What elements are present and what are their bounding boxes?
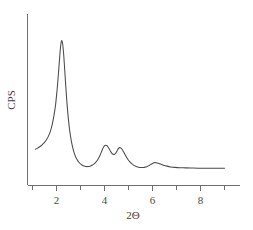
- x-tick-label-3: 8: [198, 194, 204, 206]
- chart-canvas: 2 4 6 8 2Θ CPS: [0, 0, 253, 230]
- x-tick-label-2: 6: [150, 194, 156, 206]
- x-axis-title: 2Θ: [126, 209, 140, 221]
- x-tick-label-1: 4: [102, 194, 108, 206]
- diffraction-curve: [35, 41, 224, 169]
- xrd-diffractogram-figure: 2 4 6 8 2Θ CPS: [0, 0, 253, 230]
- x-axis-minor-ticks: [33, 186, 225, 190]
- y-axis-title: CPS: [5, 90, 17, 110]
- x-tick-label-0: 2: [54, 194, 60, 206]
